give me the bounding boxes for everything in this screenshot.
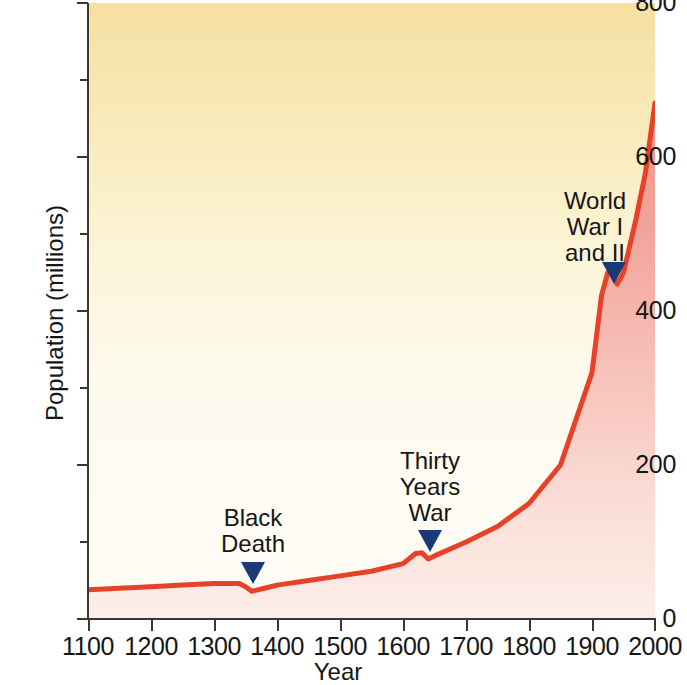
y-tick-700 bbox=[80, 79, 88, 81]
x-tick-1300 bbox=[214, 620, 216, 631]
x-tick-1800 bbox=[529, 620, 531, 631]
x-tick-1900 bbox=[592, 620, 594, 631]
y-tick-label-800: 800 bbox=[606, 0, 676, 15]
plot-area bbox=[88, 3, 655, 619]
y-tick-500 bbox=[80, 233, 88, 235]
y-tick-label-200: 200 bbox=[606, 452, 676, 477]
y-tick-label-400: 400 bbox=[606, 298, 676, 323]
x-axis-title: Year bbox=[0, 659, 676, 684]
x-tick-1200 bbox=[151, 620, 153, 631]
y-tick-200 bbox=[77, 464, 88, 466]
x-tick-1100 bbox=[88, 620, 90, 631]
plot-svg bbox=[88, 3, 655, 619]
y-tick-0 bbox=[77, 618, 88, 620]
y-tick-400 bbox=[77, 310, 88, 312]
annotation-marker-black-death-down-triangle-icon bbox=[241, 562, 265, 584]
x-tick-1600 bbox=[403, 620, 405, 631]
y-axis-title: Population (millions) bbox=[42, 153, 68, 473]
y-tick-label-0: 0 bbox=[606, 606, 676, 631]
y-tick-label-600: 600 bbox=[606, 144, 676, 169]
y-tick-800 bbox=[77, 2, 88, 4]
x-tick-label-2000: 2000 bbox=[610, 633, 687, 659]
y-tick-300 bbox=[80, 387, 88, 389]
x-tick-1500 bbox=[340, 620, 342, 631]
y-tick-600 bbox=[77, 156, 88, 158]
x-tick-1700 bbox=[466, 620, 468, 631]
annotation-marker-world-wars-down-triangle-icon bbox=[602, 262, 626, 284]
annotation-marker-thirty-years-war-down-triangle-icon bbox=[418, 530, 442, 552]
x-tick-1400 bbox=[277, 620, 279, 631]
y-tick-100 bbox=[80, 541, 88, 543]
x-axis-line bbox=[88, 618, 656, 620]
